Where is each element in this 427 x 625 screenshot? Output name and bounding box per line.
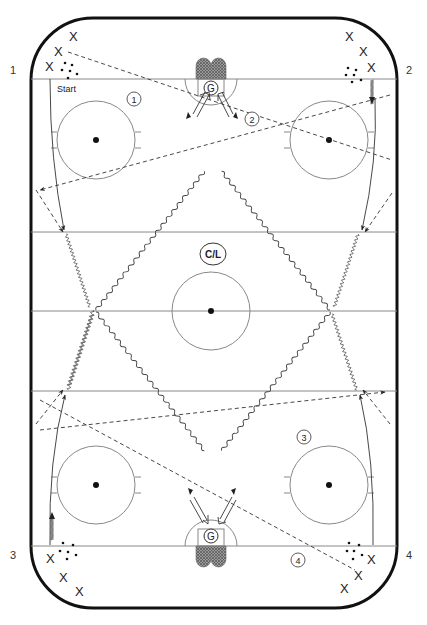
svg-text:X: X <box>46 551 55 566</box>
svg-text:X: X <box>345 29 354 44</box>
svg-text:X: X <box>359 44 368 59</box>
start-label: Start <box>57 84 77 94</box>
sequence-number-2: 2 <box>245 112 259 126</box>
svg-text:X: X <box>367 552 376 567</box>
svg-text:1: 1 <box>131 95 136 105</box>
corner-label-1: 1 <box>10 64 16 76</box>
sequence-number-1: 1 <box>127 92 141 106</box>
coach-marker: C/L <box>200 243 226 265</box>
svg-text:4: 4 <box>295 556 300 566</box>
rink-boards <box>31 18 397 608</box>
svg-text:X: X <box>54 44 63 59</box>
svg-text:C/L: C/L <box>205 249 221 260</box>
svg-text:X: X <box>59 570 68 585</box>
corner-label-4: 4 <box>406 549 412 561</box>
goalie-bottom: G <box>204 529 218 543</box>
sequence-number-4: 4 <box>291 553 305 567</box>
svg-text:X: X <box>45 59 54 74</box>
svg-text:X: X <box>75 584 84 599</box>
sequence-number-3: 3 <box>297 430 311 444</box>
svg-text:X: X <box>69 29 78 44</box>
svg-text:X: X <box>340 581 349 596</box>
corner-label-3: 3 <box>10 549 16 561</box>
svg-text:X: X <box>367 60 376 75</box>
rink-diagram: G G C/L <box>0 0 427 625</box>
svg-text:G: G <box>207 531 215 542</box>
svg-text:X: X <box>354 568 363 583</box>
svg-text:3: 3 <box>301 433 306 443</box>
corner-label-2: 2 <box>406 64 412 76</box>
svg-text:2: 2 <box>249 115 254 125</box>
